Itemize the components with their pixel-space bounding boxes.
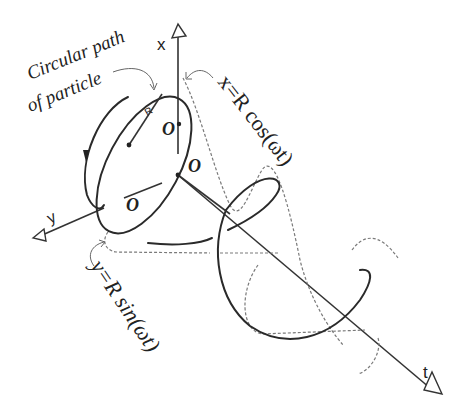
- y-axis-label: y: [44, 208, 58, 227]
- circular-path-leader: [113, 69, 154, 88]
- t-axis-label: t: [423, 363, 428, 382]
- helix-path: [148, 178, 370, 338]
- y-equation-annotation: y=R sin(ωt): [85, 240, 166, 356]
- radius-line: [129, 94, 162, 145]
- circular-path-annotation: Circular path of particle: [24, 26, 157, 116]
- origin-label-2: O: [188, 156, 201, 176]
- origin-label-3: O: [126, 195, 139, 215]
- x-equation-leader: [187, 71, 213, 79]
- radius-label: R: [143, 105, 155, 118]
- x-equation-label: x=R cos(ωt): [213, 70, 299, 171]
- y-equation-label: y=R sin(ωt): [85, 253, 166, 356]
- x-equation-annotation: x=R cos(ωt): [186, 70, 299, 171]
- y-axis: y: [33, 208, 104, 241]
- x-projection-curve: [183, 78, 398, 345]
- origin-label-1: O: [162, 119, 175, 139]
- y-axis-arrow-icon: [33, 229, 46, 241]
- x-axis-label: x: [157, 35, 166, 54]
- t-axis: t: [178, 175, 442, 394]
- x-axis-arrow-icon: [172, 24, 186, 38]
- helix-diagram: x y t R: [0, 0, 465, 418]
- center-point: [127, 143, 132, 148]
- origin-markers: [176, 173, 230, 214]
- diagram-canvas: x y t R: [0, 0, 465, 418]
